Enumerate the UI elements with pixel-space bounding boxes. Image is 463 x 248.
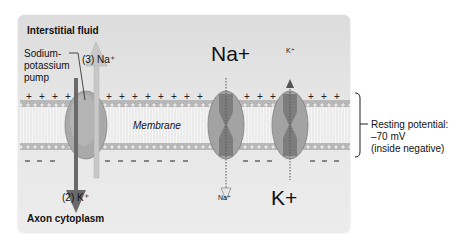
resting-potential-line2: –70 mV [371, 131, 405, 142]
svg-text:+: + [26, 91, 32, 102]
svg-text:+: + [119, 91, 125, 102]
sodium-channel [208, 78, 244, 200]
potassium-channel [272, 79, 308, 180]
pump-label-line3: pump [24, 72, 49, 83]
axon-cytoplasm-label: Axon cytoplasm [27, 213, 104, 224]
svg-text:+: + [184, 91, 190, 102]
na-large-label: Na+ [211, 43, 250, 65]
k-small-label: K⁺ [286, 45, 295, 56]
svg-text:+: + [106, 91, 112, 102]
svg-text:+: + [308, 91, 314, 102]
na-out-label: (3) Na⁺ [82, 54, 115, 65]
svg-text:+: + [132, 91, 138, 102]
svg-text:+: + [52, 91, 58, 102]
sodium-potassium-pump [65, 91, 107, 159]
k-large-label: K+ [271, 187, 297, 209]
svg-text:+: + [321, 91, 327, 102]
svg-text:+: + [270, 91, 276, 102]
interstitial-fluid-label: Interstitial fluid [27, 25, 99, 36]
svg-text:+: + [334, 91, 340, 102]
svg-text:+: + [171, 91, 177, 102]
membrane-label: Membrane [133, 120, 181, 131]
svg-text:+: + [158, 91, 164, 102]
svg-text:+: + [244, 91, 250, 102]
pump-label-line1: Sodium- [24, 48, 61, 59]
svg-text:+: + [145, 91, 151, 102]
resting-potential-line1: Resting potential: [371, 119, 448, 130]
resting-potential-line3: (inside negative) [371, 143, 444, 154]
k-in-label: (2) K⁺ [62, 192, 89, 203]
svg-text:+: + [65, 91, 71, 102]
svg-text:+: + [39, 91, 45, 102]
na-small-label: Na⁺ [218, 192, 231, 203]
svg-text:+: + [257, 91, 263, 102]
pump-label-line2: potassium [24, 60, 70, 71]
svg-text:+: + [197, 91, 203, 102]
potential-bracket [355, 93, 360, 157]
